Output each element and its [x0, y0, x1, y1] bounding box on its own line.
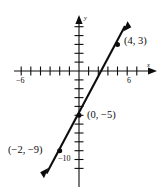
- x-axis-label: x: [147, 62, 150, 69]
- point-label-0-neg5: (0, −5): [87, 110, 116, 121]
- data-point-0-neg5: [77, 113, 82, 118]
- y-axis-label: y: [84, 15, 87, 22]
- data-point-neg2-neg9: [57, 148, 62, 153]
- graph-figure: (4, 3) (0, −5) (−2, −9) −6 6 −10 x y: [0, 0, 167, 187]
- point-label-neg2-neg9: (−2, −9): [8, 145, 43, 156]
- data-point-4-3: [115, 42, 120, 47]
- point-label-4-3: (4, 3): [124, 36, 147, 47]
- coordinate-plane: [0, 0, 167, 187]
- y-tick-label-neg10: −10: [58, 155, 71, 163]
- x-tick-label-6: 6: [127, 77, 131, 85]
- x-axis: [14, 67, 157, 74]
- y-axis: [75, 15, 82, 187]
- x-tick-label-neg6: −6: [16, 77, 25, 85]
